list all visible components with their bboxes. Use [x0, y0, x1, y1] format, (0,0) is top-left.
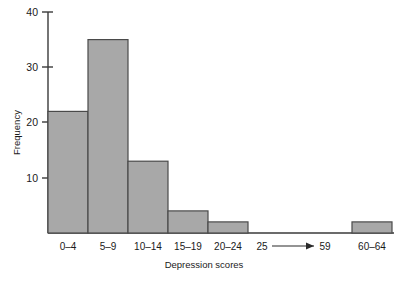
x-category-label-4: 20–24 — [214, 241, 242, 252]
chart-canvas: 40 30 20 10 Frequency 0–4 5–9 10–14 15–1… — [0, 0, 407, 281]
bar-0-4 — [48, 111, 88, 233]
x-category-label-2: 10–14 — [134, 241, 162, 252]
y-tick-label-20: 20 — [26, 116, 38, 128]
bar-5-9 — [88, 40, 128, 233]
x-category-label-3: 15–19 — [174, 241, 202, 252]
y-axis-title: Frequency — [11, 110, 22, 155]
axis-break-end-label: 59 — [319, 241, 331, 252]
x-category-label-1: 5–9 — [100, 241, 117, 252]
plot-area: 40 30 20 10 Frequency 0–4 5–9 10–14 15–1… — [0, 0, 407, 281]
bar-60-64 — [352, 222, 392, 233]
y-tick-label-10: 10 — [26, 172, 38, 184]
axis-break-start-label: 25 — [256, 241, 268, 252]
x-category-label-5: 60–64 — [358, 241, 386, 252]
y-tick-label-30: 30 — [26, 61, 38, 73]
y-tick-label-40: 40 — [26, 6, 38, 18]
x-axis-title: Depression scores — [165, 259, 244, 270]
axis-break-arrow-head — [306, 243, 314, 250]
bar-15-19 — [168, 211, 208, 233]
bar-20-24 — [208, 222, 248, 233]
histogram-figure: 40 30 20 10 Frequency 0–4 5–9 10–14 15–1… — [0, 0, 407, 281]
x-category-label-0: 0–4 — [60, 241, 77, 252]
bar-10-14 — [128, 161, 168, 233]
